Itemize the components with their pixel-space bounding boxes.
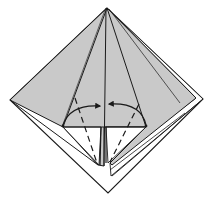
origami-diagram bbox=[0, 0, 211, 208]
right-pivot-dot bbox=[145, 125, 148, 128]
left-pivot-dot bbox=[62, 125, 65, 128]
origami-fold-svg bbox=[0, 0, 211, 208]
